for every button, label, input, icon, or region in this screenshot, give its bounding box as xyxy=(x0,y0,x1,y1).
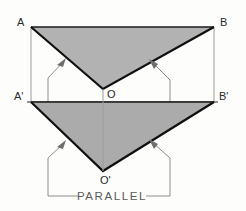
lower-triangle xyxy=(31,102,214,171)
vertex-label-b-prime: B' xyxy=(219,90,228,102)
leader-lower-right xyxy=(152,142,170,186)
vertex-label-o: O xyxy=(107,88,116,100)
vertex-label-b: B xyxy=(220,16,227,28)
leader-lower-left xyxy=(48,143,64,186)
lower-triangle-fill xyxy=(31,102,214,171)
parallel-caption: PARALLEL xyxy=(77,190,147,202)
vertex-label-a-prime: A' xyxy=(14,90,23,102)
upper-triangle xyxy=(31,27,214,89)
leader-upper-left xyxy=(48,61,64,102)
parallel-projection-diagram: A B O A' B' O' PARALLEL xyxy=(0,0,246,211)
vertex-label-o-prime: O' xyxy=(100,174,111,186)
dim-bracket-right xyxy=(146,186,170,196)
vertex-label-a: A xyxy=(17,16,25,28)
diagram-canvas: A B O A' B' O' PARALLEL xyxy=(0,0,246,211)
arrow-upper-left-icon xyxy=(57,58,66,67)
dim-bracket-left xyxy=(48,186,78,196)
upper-triangle-fill xyxy=(31,27,214,89)
